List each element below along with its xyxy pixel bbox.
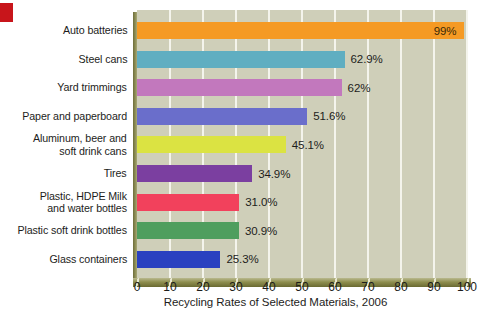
bar-value-label: 31.0%	[245, 196, 277, 208]
bar-value-label: 45.1%	[292, 139, 324, 151]
bar-2	[137, 79, 342, 96]
plot-area-wrapper: 99%62.9%62%51.6%45.1%34.9%31.0%30.9%25.3…	[133, 10, 471, 280]
x-tick-label-50: 50	[295, 280, 308, 294]
bar-value-label: 62%	[348, 82, 371, 94]
bar-value-label: 99%	[434, 25, 457, 37]
bar-value-label: 30.9%	[245, 225, 277, 237]
bar-value-label: 25.3%	[226, 253, 258, 265]
bar-6	[137, 194, 239, 211]
category-label: Glass containers	[49, 253, 127, 266]
x-tick-label-20: 20	[196, 280, 209, 294]
bar-row: 51.6%	[137, 108, 467, 125]
x-tick-label-60: 60	[328, 280, 341, 294]
category-label: Steel cans	[78, 53, 127, 66]
category-axis-labels: Auto batteriesSteel cansYard trimmingsPa…	[0, 14, 131, 276]
category-label: Paper and paperboard	[22, 110, 127, 123]
bar-4	[137, 136, 286, 153]
bar-row: 62%	[137, 79, 467, 96]
recycling-rates-bar-chart: Auto batteriesSteel cansYard trimmingsPa…	[0, 0, 479, 318]
x-tick-label-90: 90	[427, 280, 440, 294]
x-axis-title: Recycling Rates of Selected Materials, 2…	[0, 296, 479, 308]
x-axis-title-text: Recycling Rates of Selected Materials, 2…	[92, 296, 388, 308]
category-label: Plastic soft drink bottles	[17, 224, 127, 237]
bar-value-label: 62.9%	[351, 53, 383, 65]
x-tick-label-100: 100	[457, 280, 477, 294]
plot-area: 99%62.9%62%51.6%45.1%34.9%31.0%30.9%25.3…	[137, 10, 467, 278]
category-label: Tires	[104, 167, 127, 180]
bar-8	[137, 251, 220, 268]
x-tick-label-30: 30	[229, 280, 242, 294]
x-tick-label-10: 10	[163, 280, 176, 294]
bar-3	[137, 108, 307, 125]
bar-0	[137, 22, 464, 39]
x-tick-label-0: 0	[134, 280, 141, 294]
bar-row: 34.9%	[137, 165, 467, 182]
x-axis-tick-labels: 0102030405060708090100	[133, 280, 471, 296]
bar-row: 99%	[137, 22, 467, 39]
bar-row: 25.3%	[137, 251, 467, 268]
x-tick-label-70: 70	[361, 280, 374, 294]
bar-value-label: 51.6%	[313, 110, 345, 122]
category-label: Aluminum, beer and soft drink cans	[33, 132, 127, 157]
x-tick-label-80: 80	[394, 280, 407, 294]
chart-screenshot: Auto batteriesSteel cansYard trimmingsPa…	[0, 0, 479, 318]
bar-1	[137, 51, 345, 68]
bar-row: 30.9%	[137, 222, 467, 239]
x-tick-label-40: 40	[262, 280, 275, 294]
category-label: Yard trimmings	[57, 81, 127, 94]
bar-row: 45.1%	[137, 136, 467, 153]
bar-row: 62.9%	[137, 51, 467, 68]
bar-row: 31.0%	[137, 194, 467, 211]
bar-5	[137, 165, 252, 182]
category-label: Auto batteries	[63, 24, 127, 37]
category-label: Plastic, HDPE Milk and water bottles	[40, 190, 127, 215]
bar-7	[137, 222, 239, 239]
bar-value-label: 34.9%	[258, 168, 290, 180]
